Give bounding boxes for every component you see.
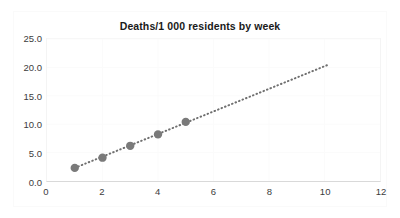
y-tick-label: 5.0 [8, 148, 42, 159]
x-tick-label: 0 [43, 186, 48, 197]
chart-title: Deaths/1 000 residents by week [0, 20, 400, 32]
data-point-marker [126, 142, 134, 150]
data-point-marker [71, 164, 79, 172]
x-axis-tick-labels: 024681012 [46, 186, 381, 202]
data-point-marker [182, 118, 190, 126]
y-tick-label: 25.0 [8, 33, 42, 44]
y-tick-label: 10.0 [8, 119, 42, 130]
y-axis-tick-labels: 0.05.010.015.020.025.0 [6, 38, 42, 182]
y-tick-label: 20.0 [8, 61, 42, 72]
y-tick-label: 15.0 [8, 90, 42, 101]
x-tick-label: 6 [211, 186, 216, 197]
data-point-marker [98, 154, 106, 162]
y-tick-label: 0.0 [8, 177, 42, 188]
chart-canvas [47, 39, 380, 181]
plot-area [46, 38, 381, 182]
x-tick-label: 2 [99, 186, 104, 197]
x-tick-label: 12 [376, 186, 387, 197]
x-tick-label: 10 [320, 186, 331, 197]
chart-figure: Deaths/1 000 residents by week 0.05.010.… [0, 0, 400, 218]
x-tick-label: 8 [267, 186, 272, 197]
data-points-series [71, 118, 190, 172]
data-point-marker [154, 130, 162, 138]
x-tick-label: 4 [155, 186, 160, 197]
